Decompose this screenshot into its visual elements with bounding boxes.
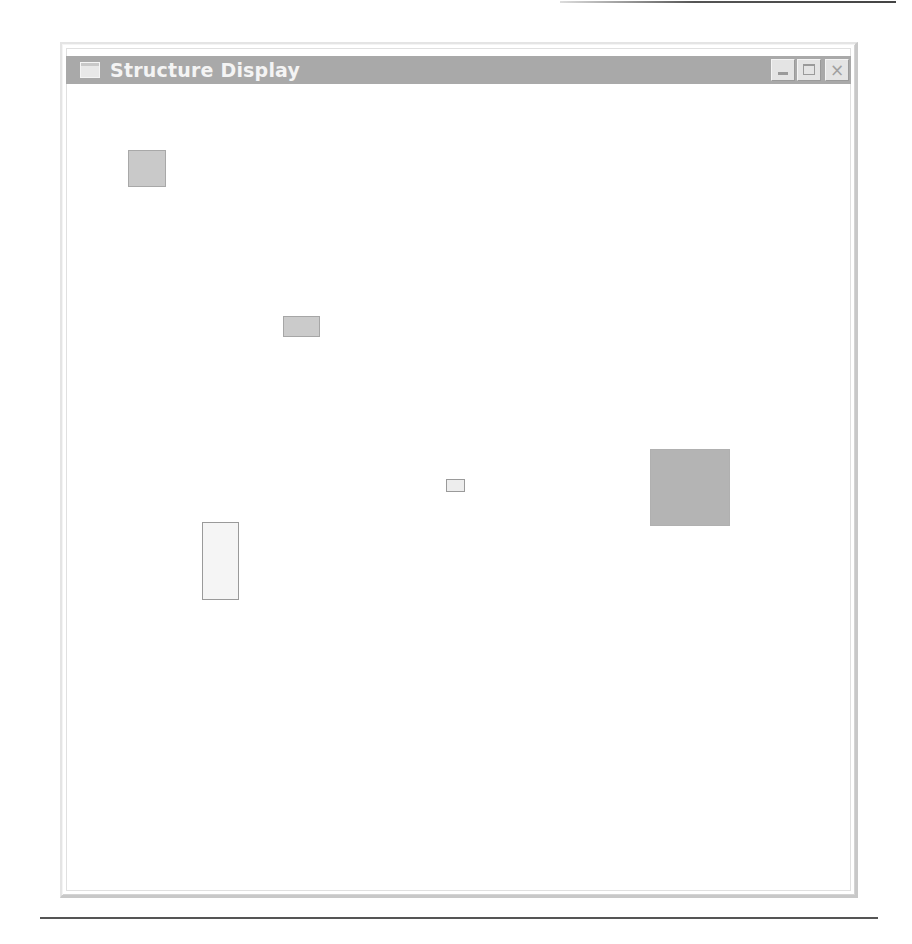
bottom-page-rule [40, 917, 878, 919]
maximize-icon [803, 64, 815, 75]
structure-display-window: Structure Display × [60, 42, 858, 898]
top-page-rule [560, 1, 896, 3]
structure-block-4[interactable] [650, 449, 730, 526]
title-bar[interactable]: Structure Display × [66, 56, 851, 84]
close-button[interactable]: × [825, 59, 849, 81]
minimize-icon [778, 72, 788, 75]
structure-block-3[interactable] [446, 479, 465, 492]
minimize-button[interactable] [771, 59, 795, 81]
structure-block-1[interactable] [128, 150, 166, 187]
window-app-icon[interactable] [80, 62, 100, 78]
maximize-button[interactable] [797, 59, 821, 81]
structure-block-5[interactable] [202, 522, 239, 600]
window-controls: × [771, 59, 849, 81]
structure-canvas[interactable] [66, 86, 851, 891]
structure-block-2[interactable] [283, 316, 320, 337]
close-icon: × [826, 60, 848, 80]
window-title: Structure Display [110, 59, 300, 81]
